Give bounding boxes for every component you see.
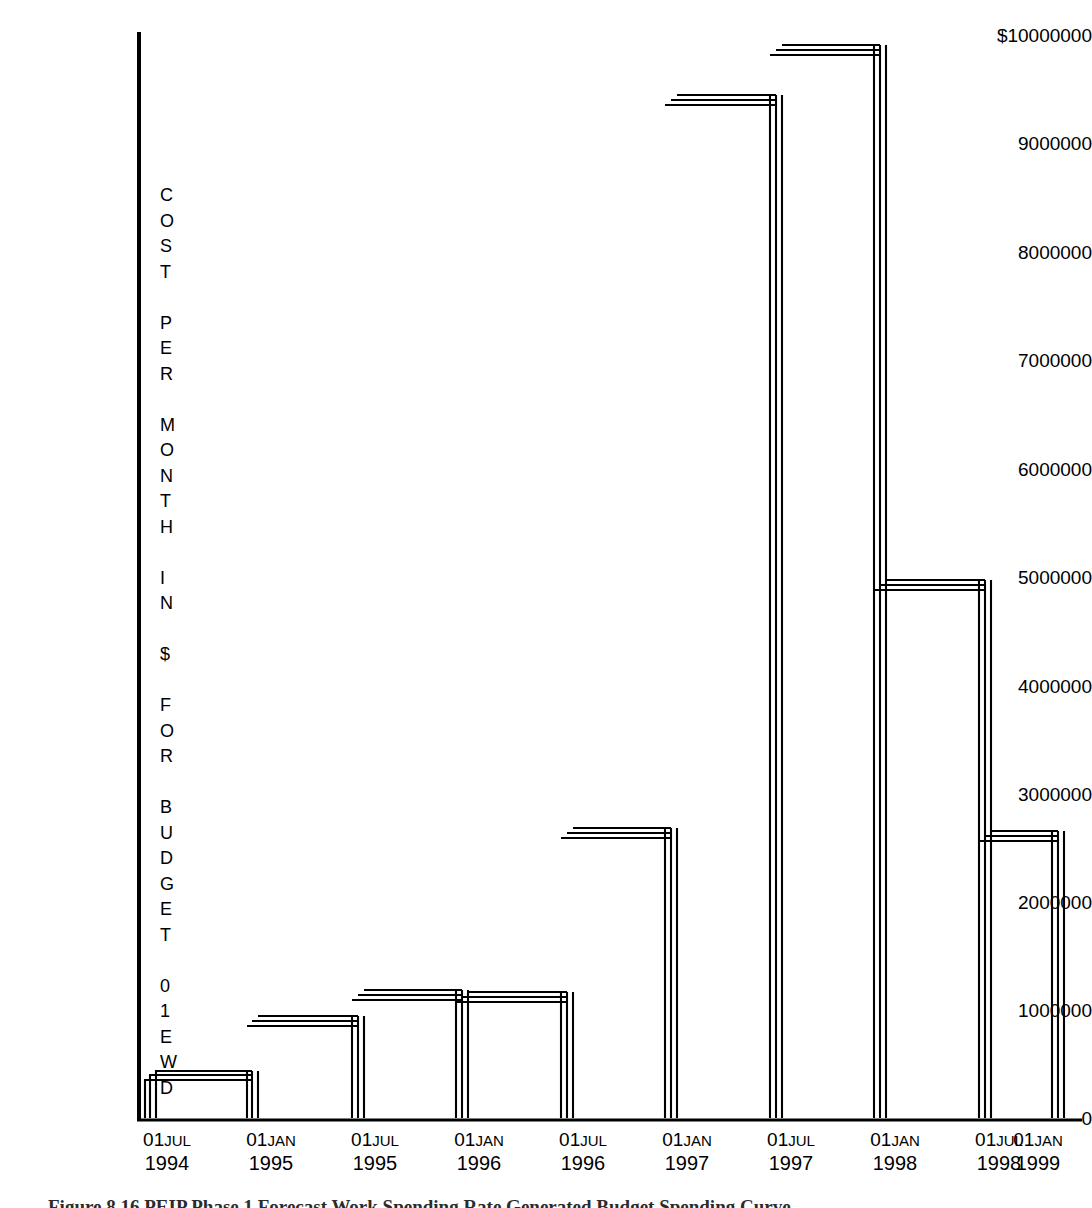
xtick-daymonth: 01JUL: [731, 1129, 851, 1152]
xtick-year: 1997: [627, 1152, 747, 1175]
xtick-year: 1994: [107, 1152, 227, 1175]
bar-group: [145, 45, 1064, 1118]
y-axis-title-char: D: [160, 1076, 194, 1102]
ytick-label-7000000: 7000000: [966, 351, 1092, 370]
y-axis-title-char: R: [160, 744, 194, 770]
y-axis-title-gap: [160, 617, 194, 643]
y-axis-title-char: O: [160, 209, 194, 235]
y-axis-title-char: I: [160, 566, 194, 592]
y-axis-title-char: M: [160, 413, 194, 439]
xtick-label-9: 01JAN 1999: [978, 1129, 1092, 1175]
y-axis-title-char: W: [160, 1050, 194, 1076]
y-axis-title-char: F: [160, 693, 194, 719]
y-axis-title-char: T: [160, 923, 194, 949]
ytick-label-1000000: 1000000: [966, 1001, 1092, 1020]
bar-01jan1998: [874, 580, 991, 1118]
xtick-year: 1996: [419, 1152, 539, 1175]
figure-caption: Figure 8.16 PEIP Phase 1 Forecast Work S…: [48, 1196, 1058, 1208]
xtick-year: 1997: [731, 1152, 851, 1175]
ytick-label-8000000: 8000000: [966, 243, 1092, 262]
y-axis-title: COSTPERMONTHIN$FORBUDGET01EWD: [160, 183, 194, 1101]
ytick-label-9000000: 9000000: [966, 134, 1092, 153]
bar-01jan1995: [247, 1016, 364, 1118]
xtick-label-5: 01JAN 1997: [627, 1129, 747, 1175]
y-axis-title-gap: [160, 285, 194, 311]
y-axis-title-char: P: [160, 311, 194, 337]
xtick-daymonth: 01JAN: [627, 1129, 747, 1152]
xtick-daymonth: 01JAN: [211, 1129, 331, 1152]
xtick-label-4: 01JUL 1996: [523, 1129, 643, 1175]
bar-01jan1997: [665, 95, 782, 1118]
xtick-daymonth: 01JAN: [419, 1129, 539, 1152]
ytick-label-10000000: $10000000: [966, 26, 1092, 45]
xtick-label-2: 01JUL 1995: [315, 1129, 435, 1175]
y-axis-title-char: 1: [160, 999, 194, 1025]
y-axis-title-gap: [160, 540, 194, 566]
bar-01jul1995: [352, 990, 468, 1118]
y-axis-title-gap: [160, 948, 194, 974]
xtick-label-0: 01JUL 1994: [107, 1129, 227, 1175]
y-axis-title-char: D: [160, 846, 194, 872]
y-axis-title-char: C: [160, 183, 194, 209]
y-axis-title-char: B: [160, 795, 194, 821]
y-axis-title-char: N: [160, 591, 194, 617]
y-axis-title-char: G: [160, 872, 194, 898]
y-axis-title-char: O: [160, 719, 194, 745]
xtick-year: 1995: [315, 1152, 435, 1175]
xtick-daymonth: 01JUL: [523, 1129, 643, 1152]
y-axis-title-char: T: [160, 260, 194, 286]
xtick-year: 1999: [978, 1152, 1092, 1175]
y-axis-title-char: E: [160, 336, 194, 362]
ytick-label-5000000: 5000000: [966, 568, 1092, 587]
ytick-label-4000000: 4000000: [966, 677, 1092, 696]
bar-chart: $10000000 9000000 8000000 7000000 600000…: [0, 0, 1092, 1208]
xtick-daymonth: 01JAN: [978, 1129, 1092, 1152]
bar-01jul1996: [561, 828, 677, 1118]
y-axis-title-char: E: [160, 897, 194, 923]
xtick-daymonth: 01JAN: [835, 1129, 955, 1152]
y-axis-title-char: N: [160, 464, 194, 490]
y-axis-title-char: 0: [160, 974, 194, 1000]
y-axis-title-char: T: [160, 489, 194, 515]
xtick-year: 1995: [211, 1152, 331, 1175]
xtick-label-3: 01JAN 1996: [419, 1129, 539, 1175]
y-axis-title-char: H: [160, 515, 194, 541]
ytick-label-0: 0: [966, 1109, 1092, 1128]
xtick-label-6: 01JUL 1997: [731, 1129, 851, 1175]
xtick-year: 1998: [835, 1152, 955, 1175]
y-axis-title-char: R: [160, 362, 194, 388]
y-axis-title-gap: [160, 387, 194, 413]
bar-01jul1997: [770, 45, 886, 1118]
ytick-label-6000000: 6000000: [966, 460, 1092, 479]
y-axis-title-char: S: [160, 234, 194, 260]
y-axis-title-gap: [160, 770, 194, 796]
y-axis-title-char: U: [160, 821, 194, 847]
y-axis-title-char: $: [160, 642, 194, 668]
xtick-daymonth: 01JUL: [315, 1129, 435, 1152]
xtick-daymonth: 01JUL: [107, 1129, 227, 1152]
xtick-year: 1996: [523, 1152, 643, 1175]
y-axis-title-char: E: [160, 1025, 194, 1051]
y-axis-title-char: O: [160, 438, 194, 464]
xtick-label-7: 01JAN 1998: [835, 1129, 955, 1175]
y-axis-title-gap: [160, 668, 194, 694]
ytick-label-2000000: 2000000: [966, 893, 1092, 912]
xtick-label-1: 01JAN 1995: [211, 1129, 331, 1175]
ytick-label-3000000: 3000000: [966, 785, 1092, 804]
bar-01jan1996: [456, 992, 573, 1118]
